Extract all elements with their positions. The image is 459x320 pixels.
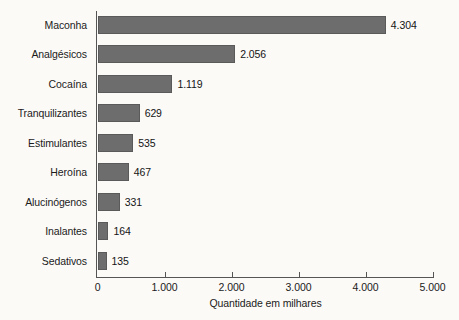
bar-value-label: 629	[145, 107, 162, 119]
x-axis-tick-label: 5.000	[420, 281, 446, 293]
category-label: Inalantes	[45, 225, 87, 237]
bar-value-label: 467	[134, 166, 151, 178]
x-axis-tick-mark	[366, 272, 367, 278]
bar-value-label: 535	[138, 137, 155, 149]
x-axis-tick-label: 3.000	[286, 281, 312, 293]
category-label: Tranquilizantes	[18, 107, 87, 119]
x-axis-tick-mark	[165, 272, 166, 278]
horizontal-bar-chart: Maconha4.304Analgésicos2.056Cocaína1.119…	[0, 0, 459, 320]
bar-value-label: 2.056	[240, 48, 266, 60]
category-label: Cocaína	[49, 78, 87, 90]
x-axis-tick-label: 2.000	[219, 281, 245, 293]
bar	[98, 193, 120, 211]
bar-row: Analgésicos2.056	[0, 41, 459, 68]
x-axis-tick-mark	[232, 272, 233, 278]
bar	[98, 16, 386, 34]
bar	[98, 252, 107, 270]
bar-value-label: 135	[112, 255, 129, 267]
bar-value-label: 331	[125, 196, 142, 208]
bar	[98, 222, 109, 240]
x-axis-tick-mark	[433, 272, 434, 278]
x-axis-tick-label: 4.000	[353, 281, 379, 293]
category-label: Estimulantes	[28, 137, 87, 149]
x-axis-title-text: Quantidade em milhares	[209, 297, 321, 309]
bar	[98, 104, 140, 122]
bar-row: Sedativos135	[0, 247, 459, 274]
bar	[98, 75, 173, 93]
x-axis-tick-mark	[299, 272, 300, 278]
category-label: Sedativos	[42, 255, 87, 267]
bar-row: Cocaína1.119	[0, 70, 459, 97]
x-axis-tick-label: 1.000	[152, 281, 178, 293]
category-label: Maconha	[45, 19, 88, 31]
bar-value-label: 1.119	[177, 78, 202, 90]
x-axis-line	[96, 277, 433, 278]
bar	[98, 45, 236, 63]
x-axis-title: Quantidade em milhares	[0, 297, 459, 309]
bar-row: Heroína467	[0, 159, 459, 186]
category-label: Heroína	[50, 166, 87, 178]
bar-value-label: 4.304	[391, 19, 417, 31]
bar	[98, 134, 134, 152]
category-label: Alucinógenos	[25, 196, 87, 208]
bar-row: Maconha4.304	[0, 11, 459, 38]
bar-row: Tranquilizantes629	[0, 100, 459, 127]
bar-row: Inalantes164	[0, 218, 459, 245]
bar-row: Alucinógenos331	[0, 188, 459, 215]
bar-value-label: 164	[113, 225, 130, 237]
category-label: Analgésicos	[31, 48, 87, 60]
x-axis-tick-label: 0	[95, 281, 101, 293]
bar	[98, 163, 129, 181]
bar-row: Estimulantes535	[0, 129, 459, 156]
